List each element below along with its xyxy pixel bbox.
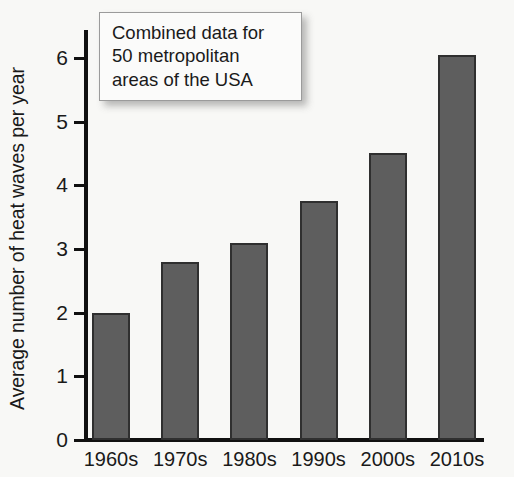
y-tick-label: 0 <box>36 429 68 451</box>
x-tick-label: 1970s <box>142 446 218 472</box>
y-tick-label: 6 <box>36 47 68 69</box>
y-tick-mark <box>74 312 87 315</box>
y-tick-label-text: 1 <box>42 365 68 386</box>
x-tick-label: 1960s <box>73 446 149 472</box>
y-tick-mark <box>74 439 87 442</box>
annotation-line-2: 50 metropolitan <box>112 44 291 67</box>
y-tick-mark <box>74 375 87 378</box>
bar <box>92 313 130 440</box>
bar <box>161 262 199 440</box>
annotation-callout: Combined data for 50 metropolitan areas … <box>99 12 302 101</box>
x-tick-label: 2010s <box>419 446 495 472</box>
y-tick-label: 2 <box>36 302 68 324</box>
heat-waves-bar-chart: Average number of heat waves per year 01… <box>0 0 514 477</box>
y-tick-label: 3 <box>36 238 68 260</box>
annotation-line-1: Combined data for <box>112 21 291 44</box>
annotation-line-3: areas of the USA <box>112 68 291 91</box>
y-tick-label-text: 0 <box>42 429 68 450</box>
y-tick-mark <box>74 121 87 124</box>
y-tick-label-text: 5 <box>42 111 68 132</box>
y-tick-label-text: 2 <box>42 302 68 323</box>
bar <box>230 243 268 440</box>
y-tick-mark <box>74 248 87 251</box>
bar <box>369 153 407 440</box>
y-tick-mark <box>74 184 87 187</box>
bar <box>438 55 476 440</box>
x-tick-label: 1980s <box>211 446 287 472</box>
y-tick-label-text: 4 <box>42 174 68 195</box>
x-tick-label: 1990s <box>281 446 357 472</box>
y-tick-label-text: 3 <box>42 238 68 259</box>
y-tick-label: 5 <box>36 111 68 133</box>
y-tick-label: 4 <box>36 174 68 196</box>
bar <box>300 201 338 440</box>
x-axis-line <box>84 438 484 442</box>
y-tick-mark <box>74 57 87 60</box>
y-tick-label-text: 6 <box>42 47 68 68</box>
y-axis-line <box>84 30 88 442</box>
y-tick-label: 1 <box>36 365 68 387</box>
x-tick-label: 2000s <box>350 446 426 472</box>
y-axis-title: Average number of heat waves per year <box>0 0 34 477</box>
